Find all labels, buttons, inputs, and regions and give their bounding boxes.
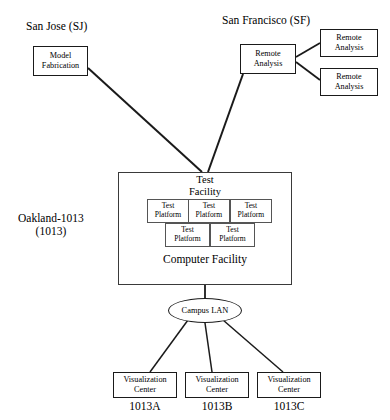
edge-remote-hub-to-remote-2: [296, 62, 320, 80]
edge-model-fab-to-test-facility: [88, 68, 202, 172]
test-platform-label: Test Platform: [155, 202, 182, 220]
test-platform-label: Test Platform: [196, 202, 223, 220]
site-label-oakland: Oakland-1013 (1013): [18, 212, 84, 238]
edge-lan-to-viz-b: [205, 323, 212, 372]
node-model-fabrication[interactable]: Model Fabrication: [33, 46, 88, 76]
test-facility-caption: Test Facility: [118, 174, 292, 197]
test-platform-label: Test Platform: [219, 226, 246, 244]
test-platform-cell[interactable]: Test Platform: [188, 199, 230, 223]
campus-lan-node[interactable]: Campus LAN: [168, 298, 242, 323]
computer-facility-caption: Computer Facility: [118, 254, 292, 266]
node-viz-center-a[interactable]: Visualization Center: [113, 372, 177, 398]
test-platform-cell[interactable]: Test Platform: [230, 199, 272, 223]
site-label-san-francisco: San Francisco (SF): [222, 14, 310, 27]
node-label: Visualization Center: [258, 375, 320, 394]
node-label: Remote Analysis: [321, 33, 377, 52]
edge-lan-to-viz-c: [223, 320, 283, 372]
node-label: Remote Analysis: [241, 49, 295, 68]
network-diagram: San Jose (SJ) San Francisco (SF) Oakland…: [0, 0, 390, 420]
node-remote-analysis-2[interactable]: Remote Analysis: [320, 68, 378, 96]
node-label: Visualization Center: [186, 375, 248, 394]
test-platform-cell[interactable]: Test Platform: [147, 199, 189, 223]
node-remote-analysis-hub[interactable]: Remote Analysis: [240, 44, 296, 74]
test-platform-label: Test Platform: [174, 226, 201, 244]
node-remote-analysis-1[interactable]: Remote Analysis: [320, 29, 378, 57]
test-platform-cell[interactable]: Test Platform: [210, 223, 255, 247]
node-label: Visualization Center: [114, 375, 176, 394]
edge-remote-hub-to-test-facility: [208, 74, 243, 172]
caption-viz-center-b: 1013B: [185, 400, 249, 413]
node-viz-center-b[interactable]: Visualization Center: [185, 372, 249, 398]
edge-lan-to-viz-a: [150, 320, 188, 372]
edge-remote-hub-to-remote-1: [296, 43, 320, 57]
site-label-san-jose: San Jose (SJ): [26, 20, 87, 33]
node-viz-center-c[interactable]: Visualization Center: [257, 372, 321, 398]
test-platform-cell[interactable]: Test Platform: [165, 223, 210, 247]
caption-viz-center-c: 1013C: [257, 400, 321, 413]
test-platform-label: Test Platform: [238, 202, 265, 220]
caption-viz-center-a: 1013A: [113, 400, 177, 413]
node-label: Remote Analysis: [321, 72, 377, 91]
campus-lan-label: Campus LAN: [182, 306, 229, 315]
node-label: Model Fabrication: [34, 51, 87, 70]
